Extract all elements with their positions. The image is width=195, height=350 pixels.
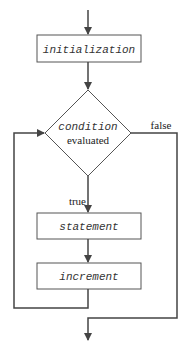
flowchart: initialization condition evaluated true … <box>0 0 195 350</box>
initialization-label: initialization <box>43 44 135 56</box>
increment-node: increment <box>37 263 141 289</box>
false-label: false <box>151 119 172 131</box>
statement-label: statement <box>59 221 118 233</box>
initialization-node: initialization <box>37 35 141 62</box>
evaluated-label: evaluated <box>67 134 110 146</box>
true-label: true <box>69 195 86 207</box>
condition-node: condition evaluated <box>45 90 131 176</box>
condition-label: condition <box>58 121 117 133</box>
increment-label: increment <box>59 271 118 283</box>
statement-node: statement <box>37 213 141 239</box>
